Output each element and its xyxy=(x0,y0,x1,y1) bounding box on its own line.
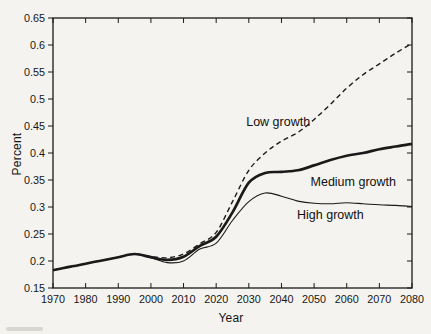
x-tick-label: 2060 xyxy=(335,293,359,305)
x-tick-label: 2080 xyxy=(400,293,424,305)
cropped-caption-fragment xyxy=(6,327,43,331)
y-tick-label: 0.25 xyxy=(24,228,45,240)
x-axis-title: Year xyxy=(131,311,331,325)
x-tick-label: 1980 xyxy=(74,293,98,305)
x-tick-label: 2030 xyxy=(237,293,261,305)
y-tick-label: 0.6 xyxy=(30,39,45,51)
y-tick-label: 0.55 xyxy=(24,66,45,78)
y-tick-label: 0.15 xyxy=(24,282,45,294)
y-tick-label: 0.45 xyxy=(24,120,45,132)
y-tick-label: 0.35 xyxy=(24,174,45,186)
series-low-growth xyxy=(53,43,412,270)
medium-growth-label: Medium growth xyxy=(311,175,396,189)
y-tick-label: 0.5 xyxy=(30,93,45,105)
figure: 1970198019902000201020202030204020502060… xyxy=(0,0,431,334)
x-tick-label: 2010 xyxy=(172,293,196,305)
y-tick-label: 0.65 xyxy=(24,12,45,24)
x-tick-label: 2020 xyxy=(204,293,228,305)
y-tick-label: 0.4 xyxy=(30,147,45,159)
x-tick-label: 2070 xyxy=(367,293,391,305)
high-growth-label: High growth xyxy=(297,208,364,222)
series-medium-growth xyxy=(53,144,412,270)
y-axis-title: Percent xyxy=(10,104,24,204)
low-growth-label: Low growth xyxy=(246,115,310,129)
x-tick-label: 1990 xyxy=(106,293,130,305)
y-tick-label: 0.2 xyxy=(30,255,45,267)
x-tick-label: 1970 xyxy=(41,293,65,305)
x-tick-label: 2000 xyxy=(139,293,163,305)
x-tick-label: 2050 xyxy=(302,293,326,305)
x-tick-label: 2040 xyxy=(269,293,293,305)
y-tick-label: 0.3 xyxy=(30,201,45,213)
chart-canvas: 1970198019902000201020202030204020502060… xyxy=(0,0,431,334)
